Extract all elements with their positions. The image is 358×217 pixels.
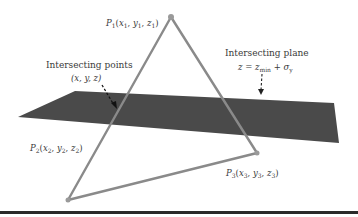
- vertex-p3: [255, 151, 260, 156]
- points-coords: (x, y, z): [71, 74, 101, 83]
- points-title: Intersecting points: [46, 61, 133, 70]
- vertex-p2: [66, 198, 71, 203]
- plane-arrow: [258, 74, 264, 95]
- bottom-rule: [0, 211, 358, 214]
- intersecting-plane: [18, 91, 339, 143]
- plane-equation: z = zmin + σy: [238, 63, 293, 73]
- vertex-p1: [168, 14, 174, 20]
- vertex-p3-label: P3(x3, y3, z3): [226, 169, 279, 179]
- vertex-p2-label: P2(x2, y2, z2): [30, 144, 83, 154]
- plane-title: Intersecting plane: [225, 49, 309, 58]
- vertex-p1-label: P1(x1, y1, z1): [106, 19, 159, 29]
- intersection-diagram: [0, 0, 358, 217]
